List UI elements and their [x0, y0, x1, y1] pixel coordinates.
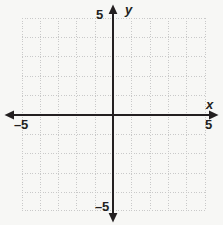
y-axis-max-tick-label: 5	[96, 8, 103, 21]
coordinate-plane-svg	[0, 0, 223, 225]
y-axis-min-tick-label: –5	[95, 200, 109, 213]
y-axis-arrow-down	[109, 213, 118, 223]
x-axis-max-tick-label: 5	[205, 118, 212, 131]
y-axis-name-label: y	[125, 3, 132, 16]
x-axis-name-label: x	[206, 98, 213, 111]
x-axis-arrow-left	[5, 111, 15, 120]
coordinate-plane-figure: 5 y –5 x 5 –5	[0, 0, 223, 225]
x-axis-min-tick-label: –5	[14, 118, 28, 131]
y-axis-arrow-up	[109, 5, 118, 15]
